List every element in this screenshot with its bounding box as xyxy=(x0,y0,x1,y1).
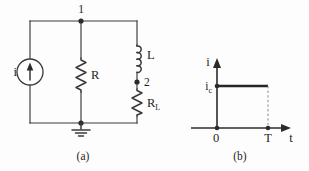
circuit-diagram: i R L RL 1 xyxy=(14,3,161,163)
origin-label: 0 xyxy=(213,131,219,145)
figure-svg: i R L RL 1 xyxy=(0,0,309,171)
caption-b: (b) xyxy=(233,150,247,163)
resistor-rl-label: RL xyxy=(147,96,160,112)
node-2-dot xyxy=(134,79,139,84)
resistor-r-label: R xyxy=(91,68,100,82)
y-axis-arrowhead xyxy=(213,58,221,68)
current-source-label: i xyxy=(14,65,18,79)
node-2-label: 2 xyxy=(144,76,150,88)
x-axis-label: t xyxy=(289,131,293,145)
amplitude-dot xyxy=(215,84,220,89)
node-1-label: 1 xyxy=(78,3,84,15)
resistor-rl-icon xyxy=(132,89,142,116)
caption-a: (a) xyxy=(77,150,90,163)
origin-dot xyxy=(215,126,220,131)
ground-icon xyxy=(72,123,90,136)
y-value-label: ic xyxy=(205,80,212,95)
current-waveform-graph: i t ic 0 T (b) xyxy=(191,55,293,163)
inductor-icon xyxy=(137,45,141,73)
y-axis-label: i xyxy=(206,55,210,69)
t-tick-dot xyxy=(266,126,271,131)
figure-root: i R L RL 1 xyxy=(0,0,309,171)
node-1-dot xyxy=(78,18,83,23)
resistor-icon xyxy=(76,58,86,92)
x-tick-label-t: T xyxy=(264,131,272,145)
current-source-icon xyxy=(17,59,43,85)
inductor-l-label: L xyxy=(147,48,155,62)
